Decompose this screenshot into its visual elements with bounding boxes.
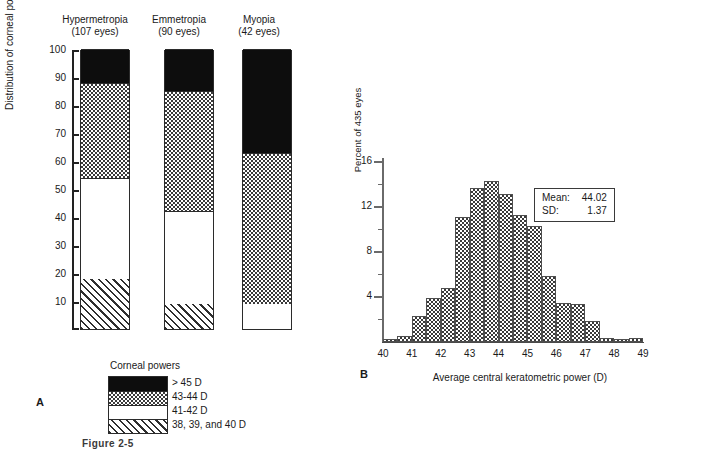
legend-label: 38, 39, and 40 D (172, 419, 246, 430)
bar-segment-hatch (81, 279, 129, 329)
legend-swatch-hatch (109, 419, 167, 433)
panel-b-y-tick-12 (374, 206, 382, 208)
panel-b-x-axis-title: Average central keratometric power (D) (370, 372, 670, 383)
y-tick-10 (74, 302, 79, 304)
figure-caption: Figure 2-5 (82, 438, 134, 449)
panel-b-letter: B (360, 368, 368, 380)
bar-segment-black (243, 49, 291, 153)
histogram-bar (426, 298, 440, 342)
bar-segment-white (81, 178, 129, 279)
sd-value: 1.37 (570, 205, 607, 218)
y-tick-label-20: 20 (36, 268, 66, 279)
panel-a-stacked-bar-chart: Distribution of corneal powers (%) Hyper… (0, 0, 350, 448)
mean-value: 44.02 (570, 192, 607, 205)
panel-b-y-tick-4 (374, 296, 382, 298)
panel-b-x-tick-label-48: 48 (603, 348, 625, 359)
panel-b-x-tick-label-49: 49 (632, 348, 654, 359)
histogram-bar (542, 276, 556, 341)
panel-b-y-minor-tick-10 (378, 229, 383, 231)
y-tick-label-50: 50 (36, 184, 66, 195)
histogram-bar (412, 316, 426, 342)
legend-label: 43-44 D (172, 391, 208, 402)
y-tick-50 (74, 190, 79, 192)
panel-a-letter: A (36, 396, 44, 408)
bar-segment-black (81, 49, 129, 83)
panel-a-y-axis (72, 50, 74, 330)
y-tick-90 (74, 78, 79, 80)
y-tick-label-10: 10 (36, 296, 66, 307)
legend-swatch-box (108, 376, 168, 434)
y-tick-label-100: 100 (36, 44, 66, 55)
bar-segment-check (243, 153, 291, 304)
legend-swatch-black (109, 377, 167, 391)
panel-b-y-tick-label-8: 8 (352, 245, 372, 256)
y-tick-label-40: 40 (36, 212, 66, 223)
panel-b-x-tick-label-47: 47 (574, 348, 596, 359)
histogram-bar (499, 194, 513, 342)
y-tick-40 (74, 218, 79, 220)
panel-b-x-tick-label-45: 45 (516, 348, 538, 359)
y-tick-60 (74, 162, 79, 164)
panel-b-y-axis-label: Percent of 435 eyes (352, 70, 363, 190)
histogram-bar (484, 181, 498, 341)
legend-label: 41-42 D (172, 405, 208, 416)
histogram-bar (571, 304, 585, 341)
histogram-bar (629, 338, 643, 341)
panel-b-y-tick-label-16: 16 (352, 155, 372, 166)
panel-a-y-axis-label: Distribution of corneal powers (%) (4, 0, 15, 110)
panel-b-x-tick-label-46: 46 (545, 348, 567, 359)
y-tick-label-80: 80 (36, 100, 66, 111)
histogram-bar (397, 336, 411, 342)
panel-b-x-tick-label-43: 43 (459, 348, 481, 359)
y-tick-30 (74, 246, 79, 248)
column-header-myopia: Myopia (42 eyes) (200, 14, 318, 37)
legend-label: > 45 D (172, 377, 202, 388)
histogram-bar (455, 217, 469, 341)
y-tick-20 (74, 274, 79, 276)
histogram-bar (600, 338, 614, 341)
bar-segment-white (243, 304, 291, 329)
bar-segment-check (81, 83, 129, 178)
y-tick-label-70: 70 (36, 128, 66, 139)
column-header-count: (42 eyes) (200, 26, 318, 38)
panel-b-y-minor-tick-14 (378, 184, 383, 186)
column-header-name: Myopia (200, 14, 318, 26)
bar-segment-black (165, 49, 213, 91)
panel-b-y-minor-tick-2 (378, 319, 383, 321)
axis-cap-bottom (72, 328, 79, 330)
histogram-bar (527, 226, 541, 341)
panel-b-x-tick-label-42: 42 (430, 348, 452, 359)
stacked-bar (164, 50, 214, 330)
panel-b-y-tick-16 (374, 161, 382, 163)
sd-label: SD: (542, 205, 570, 218)
panel-b-y-tick-label-4: 4 (352, 290, 372, 301)
panel-b-histogram-chart: Percent of 435 eyes 481216 4041424344454… (350, 0, 703, 448)
histogram-bar (585, 321, 599, 341)
statistics-box: Mean: 44.02 SD: 1.37 (534, 188, 615, 222)
panel-b-y-tick-label-12: 12 (352, 200, 372, 211)
panel-b-y-tick-8 (374, 251, 382, 253)
histogram-bar (513, 215, 527, 341)
histogram-bar (614, 339, 628, 341)
y-tick-label-60: 60 (36, 156, 66, 167)
bar-segment-hatch (165, 304, 213, 329)
panel-b-y-minor-tick-6 (378, 274, 383, 276)
bar-segment-check (165, 91, 213, 211)
legend-title: Corneal powers (0, 360, 290, 371)
panel-b-x-axis (382, 342, 644, 344)
y-tick-label-90: 90 (36, 72, 66, 83)
histogram-bar (441, 288, 455, 341)
y-tick-label-30: 30 (36, 240, 66, 251)
histogram-bar (383, 339, 397, 341)
legend-swatch-white (109, 405, 167, 419)
y-tick-100 (74, 50, 79, 52)
y-tick-70 (74, 134, 79, 136)
y-tick-80 (74, 106, 79, 108)
panel-b-x-tick-label-40: 40 (372, 348, 394, 359)
histogram-bar (470, 188, 484, 341)
histogram-bar (556, 303, 570, 341)
mean-label: Mean: (542, 192, 570, 205)
stacked-bar (242, 50, 292, 330)
legend-swatch-check (109, 391, 167, 405)
panel-b-x-tick-label-41: 41 (401, 348, 423, 359)
